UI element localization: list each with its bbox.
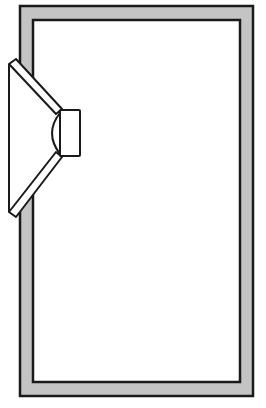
diagram-canvas <box>0 0 266 408</box>
magnet <box>60 110 80 156</box>
enclosure-wall <box>20 6 253 396</box>
speaker-enclosure-diagram <box>0 0 266 408</box>
